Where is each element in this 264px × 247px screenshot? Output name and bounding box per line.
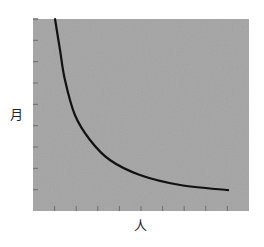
plot-area	[0, 0, 264, 247]
plot-background	[33, 19, 249, 211]
x-axis-label: 人	[134, 219, 147, 232]
chart: 月 人	[0, 0, 264, 247]
y-axis-label: 月	[10, 108, 23, 121]
